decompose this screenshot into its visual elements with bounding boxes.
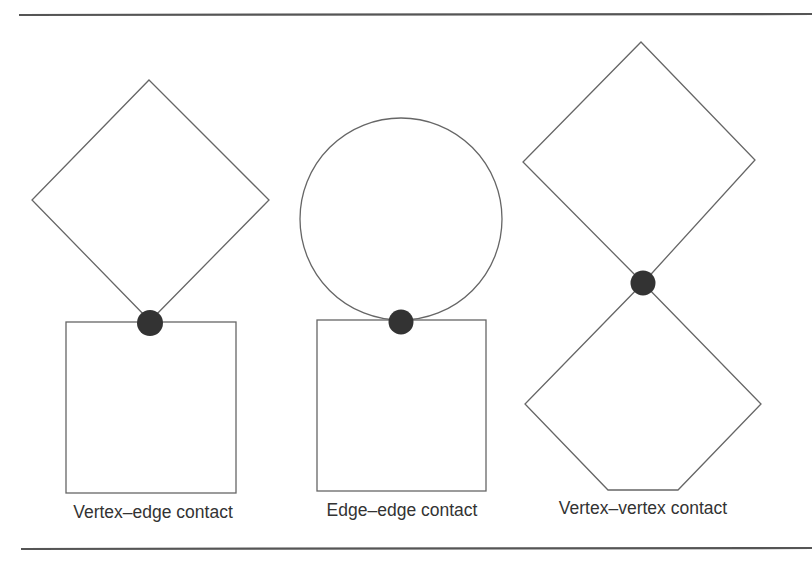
panel-vertex-edge: Vertex–edge contact: [32, 80, 269, 522]
lower-square: [317, 320, 486, 491]
panel-label: Vertex–vertex contact: [559, 498, 727, 518]
contact-types-diagram: Vertex–edge contact Edge–edge contact Ve…: [0, 0, 812, 564]
upper-circle: [300, 118, 502, 320]
contact-point: [631, 271, 656, 296]
panel-vertex-vertex: Vertex–vertex contact: [523, 42, 761, 518]
lower-pentagon: [525, 283, 761, 490]
bottom-rule: [21, 548, 812, 549]
top-rule: [19, 14, 812, 15]
panel-edge-edge: Edge–edge contact: [300, 118, 502, 520]
panel-label: Vertex–edge contact: [73, 502, 233, 522]
upper-diamond: [32, 80, 269, 321]
contact-point: [137, 310, 163, 336]
upper-diamond: [523, 42, 755, 283]
contact-point: [389, 310, 414, 335]
panel-label: Edge–edge contact: [327, 500, 478, 520]
lower-square: [66, 322, 236, 493]
